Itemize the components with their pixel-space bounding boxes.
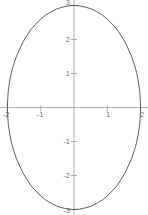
y-tick-label-1: 1 <box>66 69 70 78</box>
x-tick-label-1: 1 <box>106 110 110 119</box>
y-tick-label-minus2: -2 <box>63 171 70 180</box>
axes-group <box>0 0 148 215</box>
x-tick-labels: -2 -1 1 2 <box>3 110 144 119</box>
y-tick-label-minus3: -3 <box>63 206 70 215</box>
x-tick-label-minus2: -2 <box>3 110 10 119</box>
y-tick-label-2: 2 <box>66 35 70 44</box>
x-tick-label-minus1: -1 <box>37 110 44 119</box>
plot-canvas: -2 -1 1 2 3 2 1 -1 -2 -3 <box>0 0 148 215</box>
y-tick-label-minus1: -1 <box>63 137 70 146</box>
ellipse-plot-figure: -2 -1 1 2 3 2 1 -1 -2 -3 <box>0 0 148 215</box>
